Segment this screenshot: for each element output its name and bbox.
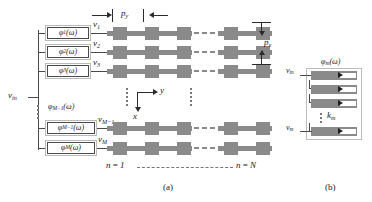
array-column-1-ellipsis [126, 88, 128, 106]
vin-label-a: vin [8, 91, 17, 101]
v1-label: v1 [93, 20, 100, 30]
phase-shifter-1[interactable]: φ1(ω) [45, 25, 91, 41]
ps-3-out-wire [91, 71, 108, 72]
array-row-2 [107, 46, 192, 59]
px-arrow-top [259, 31, 265, 36]
axis-x-line [137, 92, 138, 108]
py-tick-right [143, 9, 144, 22]
vm-label: vM [98, 135, 107, 145]
array-row-m-1 [107, 122, 192, 135]
array-row-1-break [194, 32, 215, 34]
array-row-m [107, 142, 192, 155]
array-row-m-break [194, 147, 215, 149]
panel-b-vm-lead [300, 131, 312, 132]
phase-shifter-2[interactable]: φ2(ω) [45, 44, 91, 60]
py-line-left [92, 15, 107, 16]
array-row-1 [107, 27, 192, 40]
caption-a: (a) [163, 182, 173, 192]
axis-y-arrowhead [153, 89, 158, 95]
px-line-bottom [261, 55, 262, 64]
panel-b-ellipsis [320, 113, 322, 123]
column-range-line [137, 167, 233, 168]
array-row-m-1-tail [218, 122, 272, 135]
caption-b: (b) [325, 182, 336, 192]
feed-bus-top [38, 30, 39, 98]
phase-shifter-m-1[interactable]: φM−1(ω) [45, 120, 97, 136]
panel-b-coupling-label: km [327, 111, 335, 121]
phase-shifter-m[interactable]: φM(ω) [45, 140, 97, 156]
phase-shifter-ellipsis-label: φM−1(ω) [48, 103, 74, 112]
v3-label: v3 [93, 58, 100, 68]
px-tick-bottom [252, 64, 271, 65]
panel-b-switch-icon-4 [338, 128, 343, 134]
column-index-first: n = 1 [106, 161, 125, 170]
v2-label: v2 [93, 39, 100, 49]
panel-b-switch-icon-2 [338, 86, 343, 92]
ps-2-out-wire [91, 52, 108, 53]
array-row-3-break [194, 70, 215, 72]
vin-lead-a [28, 97, 39, 98]
array-row-3 [107, 65, 192, 78]
py-line-right [154, 15, 168, 16]
array-row-m-tail [218, 142, 272, 155]
panel-b-switch-icon-3 [338, 100, 343, 106]
py-arrow-left [107, 12, 112, 18]
axis-y-label: y [160, 86, 164, 95]
panel-b-vin-label: vin [286, 67, 294, 76]
axis-y-line [137, 92, 154, 93]
phase-shifter-3[interactable]: φ3(ω) [45, 63, 91, 79]
array-row-m-1-break [194, 127, 215, 129]
column-index-last: n = N [236, 161, 256, 170]
py-arrow-right [149, 12, 154, 18]
panel-b-switch-icon-1 [338, 72, 343, 78]
py-label: py [121, 9, 128, 19]
ps-1-out-wire [91, 33, 108, 34]
array-row-2-break [194, 51, 215, 53]
array-row-3-tail [218, 65, 272, 78]
panel-b-vm-label: vm [286, 124, 294, 133]
py-tick-left [112, 9, 113, 22]
feed-bus-ellipsis [37, 105, 39, 119]
px-label: px [264, 38, 271, 48]
px-arrow-bottom [259, 50, 265, 55]
axis-x-label: x [133, 112, 137, 121]
panel-b-title: φm(ω) [321, 58, 340, 67]
figure-root: vin φ1(ω) v1 φ2(ω) v2 φ3(ω) v3 φM−1(ω) [0, 0, 372, 202]
array-column-2-ellipsis [190, 88, 192, 106]
